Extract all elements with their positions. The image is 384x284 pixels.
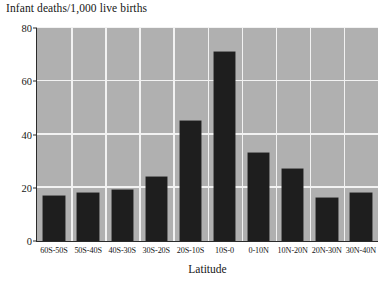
x-axis-tick-label: 0-10N (242, 243, 276, 261)
y-axis: 020406080 (0, 28, 37, 241)
bar-slot (139, 28, 173, 241)
x-axis-tick-label: 20N-30N (310, 243, 344, 261)
x-axis-tick-label: 30N-40N (344, 243, 378, 261)
y-axis-tick-label: 40 (22, 129, 33, 140)
x-axis-tick-labels: 60S-50S50S-40S40S-30S30S-20S20S-10S10S-0… (37, 243, 378, 261)
bar-chart-figure: Infant deaths/1,000 live births 02040608… (0, 0, 384, 284)
bar (43, 196, 64, 241)
bar (350, 193, 371, 241)
y-axis-tick-label: 20 (22, 182, 33, 193)
bar-series (37, 28, 378, 241)
bar-slot (276, 28, 310, 241)
y-axis-tick-label: 80 (22, 23, 33, 34)
bar-slot (71, 28, 105, 241)
x-axis-line (36, 241, 378, 242)
x-axis-tick-label: 60S-50S (37, 243, 71, 261)
chart-title: Infant deaths/1,000 live births (6, 2, 147, 14)
x-axis-tick-label: 10S-0 (207, 243, 241, 261)
bar-slot (207, 28, 241, 241)
bar (316, 198, 337, 241)
bar-slot (242, 28, 276, 241)
bar (77, 193, 98, 241)
x-axis-tick-label: 50S-40S (71, 243, 105, 261)
x-axis-tick-label: 40S-30S (105, 243, 139, 261)
bar-slot (344, 28, 378, 241)
bar (248, 153, 269, 241)
x-axis-tick-label: 10N-20N (276, 243, 310, 261)
bar-slot (105, 28, 139, 241)
bar (112, 190, 133, 241)
x-axis-tick-label: 20S-10S (173, 243, 207, 261)
bar-slot (37, 28, 71, 241)
y-axis-tick-label: 60 (22, 76, 33, 87)
bar (180, 121, 201, 241)
bar (282, 169, 303, 241)
x-axis-title: Latitude (37, 263, 378, 275)
plot-area (37, 28, 378, 241)
bar (214, 52, 235, 241)
x-axis-tick-label: 30S-20S (139, 243, 173, 261)
bar (146, 177, 167, 241)
bar-slot (310, 28, 344, 241)
y-axis-tick-label: 0 (27, 236, 32, 247)
bar-slot (173, 28, 207, 241)
